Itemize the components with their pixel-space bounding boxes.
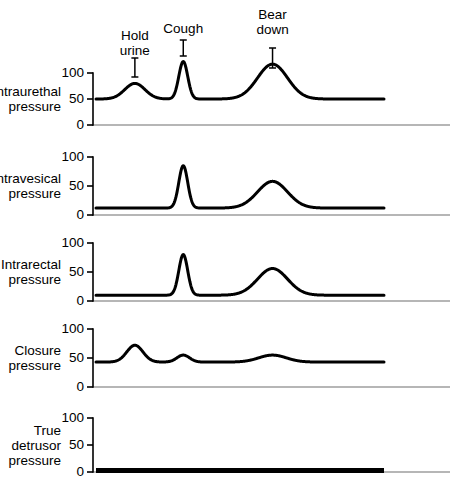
event-label: Bear (258, 7, 287, 22)
panel-label: pressure (8, 272, 61, 287)
y-axis-tick-label: 100 (61, 410, 84, 425)
event-annotations-group: HoldurineCoughBeardown (120, 7, 289, 77)
y-axis-tick-label: 50 (69, 437, 84, 452)
pressure-trace (96, 62, 384, 99)
y-axis-tick-label: 100 (61, 149, 84, 164)
event-label: Hold (121, 28, 149, 43)
panel-intravesical-pressure: 050100Intravesicalpressure (0, 149, 450, 222)
y-axis-tick-label: 50 (69, 178, 84, 193)
y-axis-tick-label: 0 (76, 379, 84, 394)
y-axis-tick-label: 100 (61, 235, 84, 250)
chart-canvas: 050100Intraurethalpressure050100Intraves… (0, 0, 453, 488)
panel-label: detrusor (11, 438, 61, 453)
panel-intraurethral-pressure: 050100Intraurethalpressure (0, 62, 450, 133)
panel-label: pressure (8, 453, 61, 468)
event-label: down (256, 22, 288, 37)
pressure-trace (96, 166, 384, 208)
panel-label: Intrarectal (1, 257, 61, 272)
event-annotation-cough: Cough (163, 21, 203, 56)
panels-group: 050100Intraurethalpressure050100Intraves… (0, 62, 450, 480)
panel-label: Closure (14, 343, 61, 358)
y-axis-tick-label: 50 (69, 264, 84, 279)
panel-label: pressure (8, 358, 61, 373)
panel-label: pressure (8, 186, 61, 201)
event-label: Cough (163, 21, 203, 36)
panel-label: Intravesical (0, 171, 61, 186)
y-axis-tick-label: 100 (61, 321, 84, 336)
y-axis-tick-label: 0 (76, 293, 84, 308)
panel-label: pressure (8, 99, 61, 114)
y-axis-tick-label: 0 (76, 117, 84, 132)
event-annotation-hold-urine: Holdurine (120, 28, 150, 77)
urodynamics-chart: 050100Intraurethalpressure050100Intraves… (0, 0, 453, 488)
event-annotation-bear-down: Beardown (256, 7, 288, 68)
panel-intrarectal-pressure: 050100Intrarectalpressure (1, 235, 450, 308)
panel-closure-pressure: 050100Closurepressure (8, 321, 450, 394)
y-axis-tick-label: 100 (61, 65, 84, 80)
y-axis-tick-label: 50 (69, 91, 84, 106)
y-axis-tick-label: 0 (76, 464, 84, 479)
y-axis-tick-label: 0 (76, 207, 84, 222)
panel-label: Intraurethal (0, 84, 61, 99)
y-axis-tick-label: 50 (69, 350, 84, 365)
panel-true-detrusor-pressure: 050100Truedetrusorpressure (8, 410, 450, 479)
pressure-trace (96, 345, 384, 362)
event-label: urine (120, 43, 150, 58)
panel-label: True (34, 423, 61, 438)
pressure-trace (96, 255, 384, 296)
